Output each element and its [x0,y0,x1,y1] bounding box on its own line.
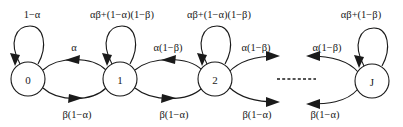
self-loop-label-1: αβ+(1−α)(1−β) [90,9,154,21]
backward-arrowhead-2-1 [161,94,176,103]
forward-arrowhead-2-dots [266,51,280,61]
forward-edge-label-1-2: α(1−β) [153,42,183,54]
self-loop-path-2 [201,26,230,64]
backward-arrowhead-dots-2 [266,97,280,107]
self-loop-path-1 [106,26,135,64]
self-loop-arrowhead-1 [102,53,112,66]
self-loop-arrowhead-2 [197,53,207,66]
forward-edge-dots-to-J [306,51,358,72]
forward-arrowhead-dots-J [306,51,320,61]
backward-arrowhead-J-dots [306,99,320,109]
backward-edge-label-2-1: β(1−α) [159,109,189,121]
backward-edge-label-J-dots: β(1−α) [310,109,340,121]
self-loop-state-2 [197,26,231,66]
self-loop-arrowhead-0 [10,53,20,66]
backward-edge-dots-to-2 [229,87,280,107]
state-label-1: 1 [117,74,123,86]
backward-edge-label-1-0: β(1−α) [62,109,92,121]
self-loop-label-2: αβ+(1−α)(1−β) [187,9,251,21]
backward-edge-J-to-dots [306,89,358,109]
state-node-1[interactable]: 1 [103,62,137,96]
forward-edge-0-to-1 [43,55,106,70]
self-loop-label-0: 1−α [24,9,41,20]
backward-edge-2-to-1 [135,88,202,103]
state-diagram-canvas: 0 1 2 J 1−α αβ+(1−α)(1−β) αβ+(1−α)(1−β) … [0,0,403,127]
self-loop-path-0 [14,26,43,64]
backward-edge-label-dots-2: β(1−α) [242,109,272,121]
state-node-J[interactable]: J [355,64,389,98]
state-label-0: 0 [25,74,31,86]
self-loop-state-J [354,28,388,68]
state-node-0[interactable]: 0 [11,62,45,96]
forward-edge-2-to-dots [229,51,280,72]
forward-arrowhead-0-1 [65,55,80,64]
forward-edge-1-to-2 [135,55,202,70]
self-loop-state-0 [10,26,44,66]
forward-edge-label-0-1: α [71,42,77,53]
state-node-2[interactable]: 2 [198,62,232,96]
state-label-J: J [370,76,375,88]
state-label-2: 2 [212,74,218,86]
markov-chain-diagram: 0 1 2 J 1−α αβ+(1−α)(1−β) αβ+(1−α)(1−β) … [0,0,403,127]
self-loop-path-J [358,28,387,66]
backward-edge-1-to-0 [43,88,106,103]
self-loop-arrowhead-J [354,55,364,68]
self-loop-label-J: αβ+(1−β) [341,9,382,21]
backward-arrowhead-1-0 [68,94,83,103]
self-loop-state-1 [102,26,136,66]
forward-arrowhead-1-2 [161,55,176,64]
forward-edge-label-dots-J: α(1−β) [312,42,342,54]
forward-edge-label-2-dots: α(1−β) [241,42,271,54]
